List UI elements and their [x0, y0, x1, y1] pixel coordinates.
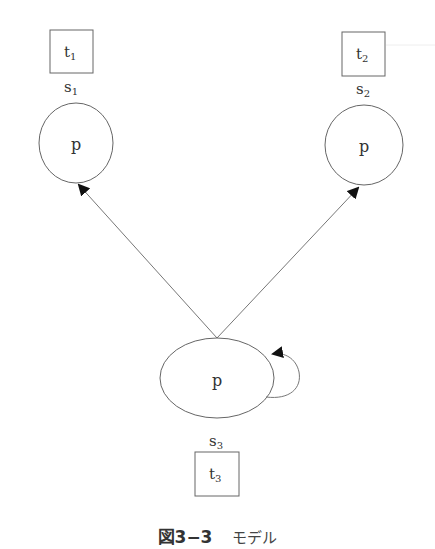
svg-text:t3: t3	[209, 465, 221, 484]
diagram-canvas: t1 s1 t2 s2 p p p s3 t3	[0, 0, 435, 549]
state-node-s3: p	[160, 338, 274, 418]
figure-title: モデル	[232, 529, 277, 547]
task-box-t1: t1	[50, 30, 93, 73]
task-box-t2: t2	[342, 32, 435, 76]
edge-s3-to-s2	[217, 188, 358, 338]
node-label-s2: p	[359, 137, 369, 156]
edge-s3-to-s1	[79, 185, 217, 338]
state-label-s1: s1	[64, 78, 78, 97]
svg-text:t1: t1	[64, 43, 76, 62]
state-label-s2: s2	[356, 80, 370, 99]
state-node-s1: p	[39, 103, 113, 183]
node-label-s3: p	[212, 371, 222, 390]
figure-number: 図3−3	[158, 527, 213, 547]
task-box-t3: t3	[195, 452, 239, 496]
svg-text:t2: t2	[356, 45, 368, 64]
figure-caption: 図3−3モデル	[0, 523, 435, 548]
node-label-s1: p	[71, 135, 81, 154]
state-label-s3: s3	[209, 432, 223, 451]
state-node-s2: p	[325, 105, 403, 185]
